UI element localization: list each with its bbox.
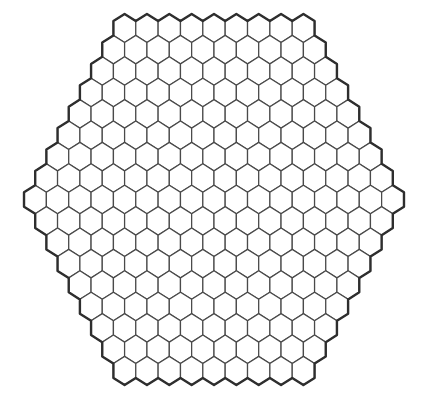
hex-board xyxy=(0,0,422,402)
hex-cells xyxy=(24,14,404,385)
